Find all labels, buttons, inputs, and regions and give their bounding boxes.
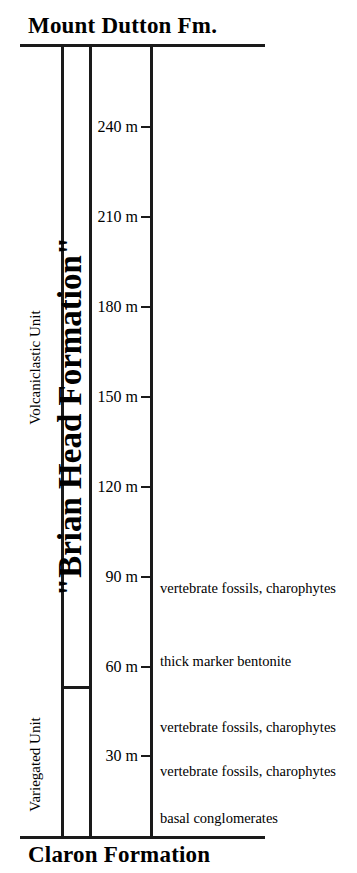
bottom-formation-name: Claron Formation bbox=[28, 843, 210, 866]
scale-tick-label: 90 m bbox=[106, 569, 138, 585]
scale-axis-rule bbox=[150, 45, 153, 836]
scale-tick-label: 30 m bbox=[106, 748, 138, 764]
scale-tick-label: 210 m bbox=[98, 209, 138, 225]
scale-tick-mark bbox=[141, 666, 153, 668]
scale-tick-mark bbox=[141, 306, 153, 308]
scale-tick-mark bbox=[141, 126, 153, 128]
scale-tick-label: 240 m bbox=[98, 119, 138, 135]
horizon-annotation: vertebrate fossils, charophytes bbox=[160, 720, 336, 735]
bottom-boundary-rule bbox=[20, 836, 265, 839]
scale-tick-mark bbox=[141, 396, 153, 398]
horizon-annotation: vertebrate fossils, charophytes bbox=[160, 581, 336, 596]
formation-label: "Brian Head Formation" bbox=[54, 137, 87, 697]
column-inner-left-rule bbox=[89, 45, 92, 836]
scale-tick-mark bbox=[141, 486, 153, 488]
scale-tick-mark bbox=[141, 216, 153, 218]
scale-tick-mark bbox=[141, 576, 153, 578]
scale-tick-label: 120 m bbox=[98, 479, 138, 495]
scale-tick-label: 60 m bbox=[106, 659, 138, 675]
member-label-volcaniclastic: Volcaniclastic Unit bbox=[28, 258, 43, 478]
top-boundary-rule bbox=[20, 44, 265, 47]
stratigraphic-column-figure: Mount Dutton Fm. "Brian Head Formation" … bbox=[0, 0, 357, 873]
horizon-annotation: basal conglomerates bbox=[160, 811, 278, 826]
scale-tick-mark bbox=[141, 755, 153, 757]
top-formation-name: Mount Dutton Fm. bbox=[28, 14, 217, 37]
horizon-annotation: vertebrate fossils, charophytes bbox=[160, 764, 336, 779]
scale-tick-label: 150 m bbox=[98, 389, 138, 405]
horizon-annotation: thick marker bentonite bbox=[160, 654, 291, 669]
scale-tick-label: 180 m bbox=[98, 299, 138, 315]
member-label-variegated: Variegated Unit bbox=[28, 677, 43, 852]
